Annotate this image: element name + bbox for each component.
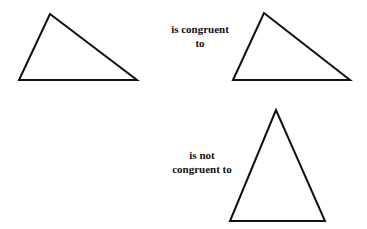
not-congruent-label-line2: congruent to [160,162,244,176]
not-congruent-label-line1: is not [160,148,244,162]
congruent-label-line2: to [160,36,240,50]
not-congruent-triangle [230,110,325,221]
congruent-label-line1: is congruent [160,22,240,36]
congruent-triangle [233,13,350,80]
congruent-label: is congruent to [160,22,240,50]
reference-triangle [19,14,137,80]
not-congruent-label: is not congruent to [160,148,244,176]
